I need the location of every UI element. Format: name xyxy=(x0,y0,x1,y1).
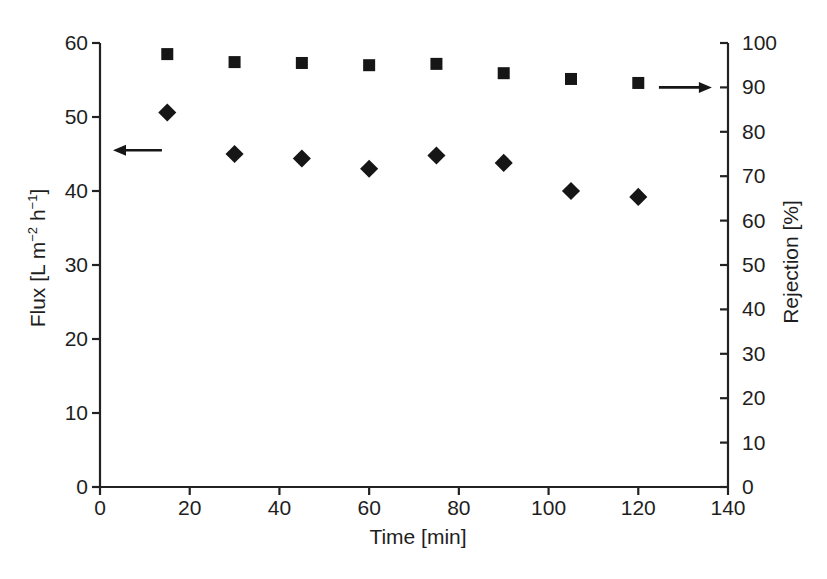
x-axis-label: Time [min] xyxy=(369,525,466,549)
data-point-diamond xyxy=(226,145,244,163)
y-left-label-sup2: −1 xyxy=(25,195,40,210)
arrow-left-icon xyxy=(113,145,126,156)
y-left-tick-label: 0 xyxy=(76,475,88,498)
x-tick-label: 80 xyxy=(447,496,470,519)
data-point-diamond xyxy=(495,154,513,172)
y-left-tick-label: 40 xyxy=(65,179,88,202)
x-tick-label: 20 xyxy=(178,496,201,519)
x-tick-label: 100 xyxy=(531,496,566,519)
y-left-label-text: Flux [L m xyxy=(26,242,49,328)
data-point-diamond xyxy=(629,188,647,206)
data-point-square xyxy=(632,77,644,89)
data-point-square xyxy=(565,73,577,85)
y-left-tick-label: 60 xyxy=(65,31,88,54)
x-tick-label: 120 xyxy=(621,496,656,519)
y-axis-label-right: Rejection [%] xyxy=(779,200,803,324)
data-point-diamond xyxy=(562,182,580,200)
y-right-tick-label: 100 xyxy=(742,31,777,54)
y-axis-label-left: Flux [L m−2 h−1] xyxy=(26,189,50,328)
data-point-diamond xyxy=(427,146,445,164)
chart-figure: 0204060801001201400102030405060010203040… xyxy=(0,0,827,579)
data-point-square xyxy=(430,58,442,70)
plot-canvas: 0204060801001201400102030405060010203040… xyxy=(0,0,827,579)
data-point-square xyxy=(161,48,173,60)
y-right-tick-label: 60 xyxy=(742,209,765,232)
data-point-square xyxy=(229,56,241,68)
data-point-diamond xyxy=(293,149,311,167)
y-right-tick-label: 10 xyxy=(742,431,765,454)
y-right-tick-label: 40 xyxy=(742,297,765,320)
data-point-square xyxy=(296,57,308,69)
y-right-tick-label: 80 xyxy=(742,120,765,143)
y-right-tick-label: 20 xyxy=(742,386,765,409)
x-tick-label: 0 xyxy=(94,496,106,519)
arrow-right-icon xyxy=(699,82,712,93)
x-tick-label: 60 xyxy=(357,496,380,519)
data-point-diamond xyxy=(360,160,378,178)
y-left-label-sup1: −2 xyxy=(25,227,40,242)
y-right-tick-label: 70 xyxy=(742,164,765,187)
data-point-diamond xyxy=(158,104,176,122)
x-tick-label: 140 xyxy=(710,496,745,519)
x-tick-label: 40 xyxy=(268,496,291,519)
y-right-tick-label: 50 xyxy=(742,253,765,276)
y-left-tick-label: 30 xyxy=(65,253,88,276)
y-left-tick-label: 20 xyxy=(65,327,88,350)
data-point-square xyxy=(498,67,510,79)
y-right-tick-label: 90 xyxy=(742,75,765,98)
y-right-tick-label: 30 xyxy=(742,342,765,365)
y-left-label-suffix: ] xyxy=(26,189,49,195)
y-left-tick-label: 50 xyxy=(65,105,88,128)
y-right-tick-label: 0 xyxy=(742,475,754,498)
y-left-tick-label: 10 xyxy=(65,401,88,424)
data-point-square xyxy=(363,59,375,71)
y-left-label-mid: h xyxy=(26,209,49,227)
